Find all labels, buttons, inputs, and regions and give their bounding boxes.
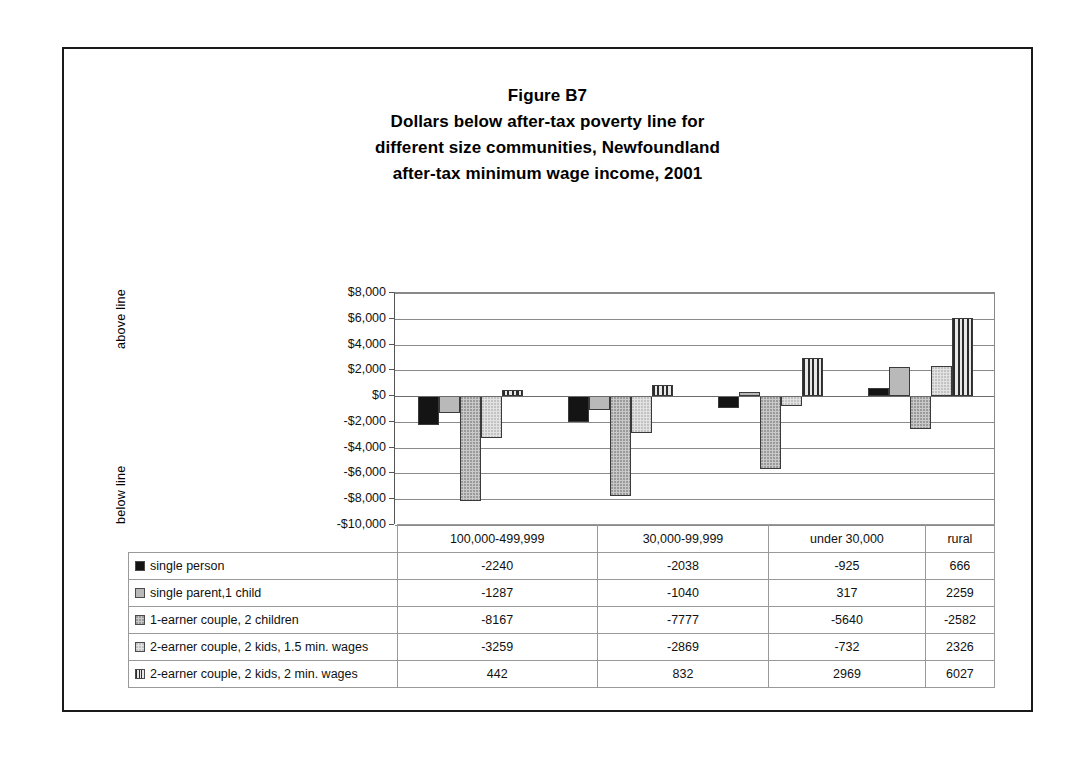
bar <box>868 388 889 397</box>
column-header-1: 30,000-99,999 <box>597 525 768 553</box>
legend-swatch-icon <box>135 669 145 679</box>
value-cell: 2326 <box>925 634 994 661</box>
table-body: single person-2240-2038-925666single par… <box>129 553 995 688</box>
value-cell: -1040 <box>597 580 768 607</box>
legend-label: 2-earner couple, 2 kids, 1.5 min. wages <box>150 640 368 654</box>
y-tick-label: $2,000 <box>348 362 386 376</box>
y-tick-mark <box>389 421 394 422</box>
legend-cell: single parent,1 child <box>129 580 398 607</box>
table-header-row: 100,000-499,999 30,000-99,999 under 30,0… <box>129 525 995 553</box>
bar <box>418 396 439 425</box>
bars-layer <box>395 293 994 524</box>
y-tick-label: -$8,000 <box>344 491 386 505</box>
legend-cell: 1-earner couple, 2 children <box>129 607 398 634</box>
bar <box>718 396 739 408</box>
value-cell: -2240 <box>397 553 597 580</box>
bar <box>931 366 952 396</box>
y-tick-mark <box>389 318 394 319</box>
column-header-0: 100,000-499,999 <box>397 525 597 553</box>
legend-swatch-icon <box>135 561 145 571</box>
value-cell: -5640 <box>769 607 926 634</box>
value-cell: 442 <box>397 661 597 688</box>
bar <box>889 367 910 396</box>
value-cell: 666 <box>925 553 994 580</box>
y-tick-mark <box>389 292 394 293</box>
value-cell: -1287 <box>397 580 597 607</box>
y-tick-label: $4,000 <box>348 337 386 351</box>
y-tick-mark <box>389 447 394 448</box>
legend-swatch-icon <box>135 615 145 625</box>
value-cell: -7777 <box>597 607 768 634</box>
bar <box>589 396 610 409</box>
value-cell: 2969 <box>769 661 926 688</box>
value-cell: -3259 <box>397 634 597 661</box>
axis-caption-below-line: below line <box>114 465 128 524</box>
bar <box>952 318 973 396</box>
column-header-3: rural <box>925 525 994 553</box>
value-cell: 2259 <box>925 580 994 607</box>
zero-line <box>395 396 994 397</box>
value-cell: 317 <box>769 580 926 607</box>
y-tick-mark <box>389 472 394 473</box>
value-cell: -732 <box>769 634 926 661</box>
bar <box>439 396 460 413</box>
table-row: 2-earner couple, 2 kids, 1.5 min. wages-… <box>129 634 995 661</box>
bar-group <box>846 293 996 524</box>
figure-frame: Figure B7 Dollars below after-tax povert… <box>62 47 1033 712</box>
value-cell: -925 <box>769 553 926 580</box>
y-tick-mark <box>389 344 394 345</box>
table-corner-cell <box>129 525 398 553</box>
y-tick-mark <box>389 369 394 370</box>
bar <box>460 396 481 501</box>
legend-label: 1-earner couple, 2 children <box>150 613 299 627</box>
legend-label: single parent,1 child <box>150 586 261 600</box>
bar-group <box>545 293 695 524</box>
y-tick-label: -$4,000 <box>344 440 386 454</box>
value-cell: -2038 <box>597 553 768 580</box>
chart-area: above line below line $8,000$6,000$4,000… <box>64 49 1035 714</box>
value-cell: -2582 <box>925 607 994 634</box>
legend-cell: 2-earner couple, 2 kids, 2 min. wages <box>129 661 398 688</box>
bar <box>652 385 673 396</box>
y-tick-mark <box>389 498 394 499</box>
y-tick-label: $0 <box>372 388 386 402</box>
y-tick-label: $6,000 <box>348 311 386 325</box>
data-table: 100,000-499,999 30,000-99,999 under 30,0… <box>128 524 995 688</box>
column-header-2: under 30,000 <box>769 525 926 553</box>
table-row: 1-earner couple, 2 children-8167-7777-56… <box>129 607 995 634</box>
legend-label: 2-earner couple, 2 kids, 2 min. wages <box>150 667 358 681</box>
value-cell: 6027 <box>925 661 994 688</box>
table-row: 2-earner couple, 2 kids, 2 min. wages442… <box>129 661 995 688</box>
value-cell: -8167 <box>397 607 597 634</box>
bar <box>802 358 823 396</box>
bar-group <box>395 293 545 524</box>
legend-swatch-icon <box>135 588 145 598</box>
y-tick-mark <box>389 395 394 396</box>
bar <box>481 396 502 438</box>
bar <box>568 396 589 422</box>
legend-swatch-icon <box>135 642 145 652</box>
table-row: single parent,1 child-1287-10403172259 <box>129 580 995 607</box>
table-row: single person-2240-2038-925666 <box>129 553 995 580</box>
legend-cell: single person <box>129 553 398 580</box>
bar <box>760 396 781 469</box>
bar-group <box>696 293 846 524</box>
bar <box>610 396 631 496</box>
y-tick-label: $8,000 <box>348 285 386 299</box>
bar <box>631 396 652 433</box>
plot-area <box>394 292 995 524</box>
y-tick-label: -$6,000 <box>344 465 386 479</box>
axis-caption-above-line: above line <box>114 289 128 349</box>
value-cell: -2869 <box>597 634 768 661</box>
value-cell: 832 <box>597 661 768 688</box>
plot-wrapper: $8,000$6,000$4,000$2,000$0-$2,000-$4,000… <box>394 292 995 524</box>
bar <box>781 396 802 405</box>
bar <box>910 396 931 429</box>
y-tick-label: -$2,000 <box>344 414 386 428</box>
legend-cell: 2-earner couple, 2 kids, 1.5 min. wages <box>129 634 398 661</box>
legend-label: single person <box>150 559 224 573</box>
